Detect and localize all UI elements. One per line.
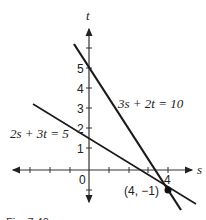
coordinate-diagram: t s 1 2 3 4 5 0 4 3s + 2t = 10 2s + 3t =…	[0, 0, 206, 220]
intersection-label: (4, −1)	[124, 184, 159, 198]
origin-label: 0	[79, 173, 86, 187]
s-axis-label: s	[197, 162, 202, 177]
y-axis	[86, 29, 92, 202]
equation-label-3s-2t: 3s + 2t = 10	[117, 96, 184, 111]
line-2s-3t-5	[33, 104, 196, 204]
y-tick-5: 5	[77, 62, 84, 76]
x-tick-4: 4	[164, 173, 171, 187]
intersection-point	[165, 187, 172, 194]
y-tick-2: 2	[77, 122, 84, 136]
equation-label-2s-3t: 2s + 3t = 5	[10, 126, 69, 141]
y-tick-3: 3	[77, 102, 84, 116]
y-tick-1: 1	[77, 142, 84, 156]
t-axis-label: t	[86, 8, 90, 23]
y-tick-4: 4	[77, 82, 84, 96]
figure-caption: Fig. 7.40	[6, 216, 49, 220]
